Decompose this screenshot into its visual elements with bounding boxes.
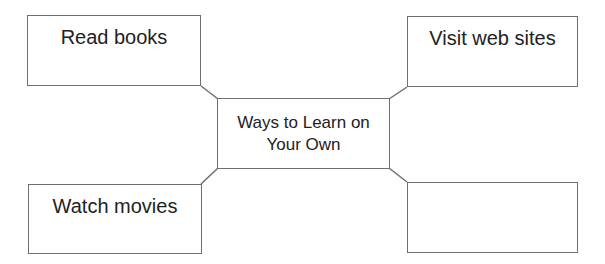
node-bottom-right-box-empty <box>407 182 578 253</box>
connector-top-left <box>201 86 218 99</box>
connector-bottom-right <box>389 168 407 182</box>
node-top-left-label: Read books <box>28 16 200 49</box>
center-topic-box: Ways to Learn on Your Own <box>217 98 390 169</box>
node-bottom-left-box: Watch movies <box>28 184 202 254</box>
node-top-left-box: Read books <box>27 15 201 86</box>
center-topic-label: Ways to Learn on Your Own <box>218 112 389 156</box>
node-top-right-label: Visit web sites <box>408 17 577 50</box>
connector-bottom-left <box>201 168 218 184</box>
node-bottom-left-label: Watch movies <box>29 185 201 218</box>
concept-map-diagram: Read books Visit web sites Ways to Learn… <box>0 0 605 264</box>
node-top-right-box: Visit web sites <box>407 16 578 87</box>
connector-top-right <box>389 87 407 99</box>
